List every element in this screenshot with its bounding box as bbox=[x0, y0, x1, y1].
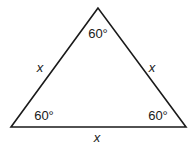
side-label-left: x bbox=[36, 60, 44, 75]
side-label-right: x bbox=[148, 60, 156, 75]
angle-label-bottom-right: 60° bbox=[148, 108, 168, 123]
angle-label-top: 60° bbox=[88, 26, 108, 41]
triangle-diagram: 60° 60° 60° x x x bbox=[0, 0, 195, 147]
angle-label-bottom-left: 60° bbox=[34, 108, 54, 123]
side-label-bottom: x bbox=[93, 130, 101, 145]
